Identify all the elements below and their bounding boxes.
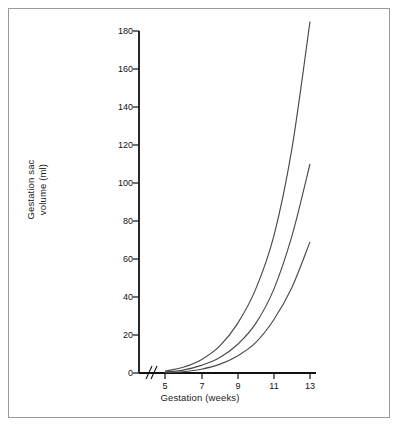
- chart-plot-area: [0, 0, 400, 428]
- y-axis-title-line-1: Gestation sac: [25, 130, 37, 250]
- y-tick-label-0: 0: [103, 368, 133, 378]
- y-tick-label-40: 40: [103, 292, 133, 302]
- curve-middle: [165, 164, 310, 372]
- y-tick-label-60: 60: [103, 254, 133, 264]
- y-tick-label-160: 160: [103, 64, 133, 74]
- y-tick-label-100: 100: [103, 178, 133, 188]
- y-tick-label-20: 20: [103, 330, 133, 340]
- y-tick-label-180: 180: [103, 26, 133, 36]
- x-tick-label-9: 9: [228, 381, 248, 391]
- x-tick-label-5: 5: [155, 381, 175, 391]
- y-axis-title-line-2: volume (ml): [36, 130, 48, 250]
- y-axis-title: Gestation sac volume (ml): [25, 130, 48, 250]
- x-tick-label-11: 11: [264, 381, 284, 391]
- y-tick-label-120: 120: [103, 140, 133, 150]
- y-tick-label-140: 140: [103, 102, 133, 112]
- x-axis-title: Gestation (weeks): [0, 392, 400, 403]
- x-tick-label-13: 13: [300, 381, 320, 391]
- curve-upper: [165, 22, 310, 372]
- curve-lower: [165, 242, 310, 373]
- y-tick-label-80: 80: [103, 216, 133, 226]
- x-tick-label-7: 7: [192, 381, 212, 391]
